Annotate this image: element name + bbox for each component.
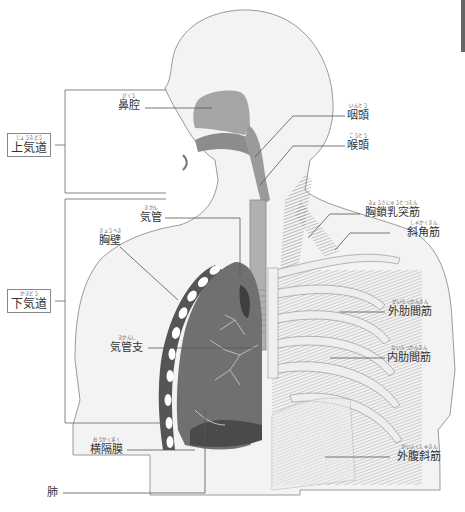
label-external-intercostal: がいろっかんきん 外肋間筋: [388, 300, 432, 317]
label-nasal-cavity: びくう 鼻腔: [118, 94, 140, 111]
respiratory-diagram: じょうきどう 上気道 かきどう 下気道 びくう 鼻腔 いんとう 咽頭 こうとう …: [0, 0, 465, 512]
anatomy-illustration: [0, 0, 465, 512]
label-diaphragm: おうかくまく 横隔膜: [90, 438, 123, 455]
page-edge-tab: [461, 0, 465, 52]
label-scalene: しゃかくきん 斜角筋: [407, 221, 440, 238]
label-larynx: こうとう 喉頭: [347, 134, 369, 151]
label-external-oblique: がいふくしゃきん 外腹斜筋: [397, 445, 441, 462]
label-upper-airway: じょうきどう 上気道: [7, 133, 51, 157]
label-chest-wall: きょうへき 胸壁: [99, 229, 122, 246]
label-trachea: きかん 気管: [140, 206, 162, 223]
label-pharynx: いんとう 咽頭: [347, 104, 369, 121]
label-sternocleidomastoid: きょうさにゅうとつきん 胸鎖乳突筋: [365, 201, 420, 218]
label-internal-intercostal: ないろっかんきん 内肋間筋: [387, 346, 431, 363]
label-lung: 肺: [47, 487, 58, 498]
label-lower-airway: かきどう 下気道: [7, 289, 51, 313]
sternum: [268, 268, 278, 378]
label-bronchi: きかんし 気管支: [110, 336, 143, 353]
